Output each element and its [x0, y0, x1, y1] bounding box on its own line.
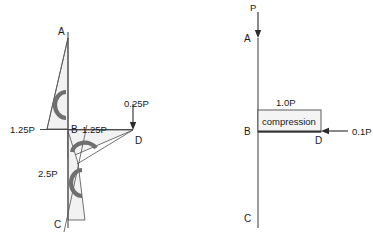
left-node-label-b: B — [71, 124, 78, 135]
shear-label-right-of-b: 1.25P — [82, 124, 107, 135]
left-node-label-c: C — [54, 219, 61, 230]
right-node-label-d: D — [315, 135, 322, 146]
load-arrow-head-0-25p — [130, 122, 136, 130]
compression-region-label: compression — [262, 116, 316, 127]
moment-label-2-5p: 2.5P — [38, 168, 58, 179]
right-node-label-c: C — [244, 213, 251, 224]
side-load-arrow-head — [321, 128, 329, 134]
axial-value-label: 1.0P — [276, 97, 296, 108]
top-load-arrow-head — [255, 30, 261, 38]
reaction-label-left: 1.25P — [10, 124, 35, 135]
load-label-0-25p: 0.25P — [124, 98, 149, 109]
right-axial-force-diagram: A B C D P 1.0P compression 0.1P — [244, 2, 372, 228]
side-load-label: 0.1P — [352, 126, 372, 137]
left-node-label-d: D — [135, 135, 142, 146]
right-node-label-a: A — [244, 33, 251, 44]
figure-root: A B C D 1.25P 1.25P 0.25P 2.5P — [0, 0, 373, 244]
top-load-label: P — [250, 2, 256, 13]
left-free-body-diagram: A B C D 1.25P 1.25P 0.25P 2.5P — [10, 26, 149, 232]
right-node-label-b: B — [244, 126, 251, 137]
engineering-figure-svg: A B C D 1.25P 1.25P 0.25P 2.5P — [0, 0, 373, 244]
left-node-label-a: A — [58, 26, 65, 37]
